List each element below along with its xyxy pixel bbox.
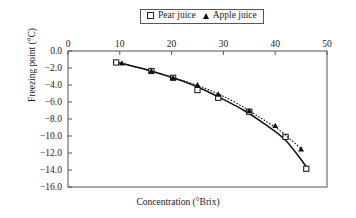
x-tick-label: 30 (219, 39, 229, 49)
y-tick-label: −10.0 (40, 131, 62, 141)
y-tick-label: −14.0 (40, 165, 62, 175)
plot-frame (68, 51, 327, 187)
y-tick-label: −16.0 (40, 182, 62, 192)
y-tick-label: −6.0 (45, 97, 62, 107)
data-point-pear-juice (304, 166, 309, 171)
x-tick-label: 0 (66, 39, 71, 49)
x-tick-label: 50 (322, 39, 332, 49)
data-point-apple-juice (195, 82, 201, 87)
x-tick-label: 40 (270, 39, 280, 49)
freezing-point-chart: Pear juice Apple juice Freezing point (°… (0, 0, 356, 218)
data-point-apple-juice (215, 91, 221, 96)
y-tick-label: −8.0 (45, 114, 62, 124)
data-point-pear-juice (114, 60, 119, 65)
series-line-pear-juice (116, 62, 306, 167)
x-tick-label: 20 (167, 39, 177, 49)
y-tick-label: −2.0 (45, 63, 62, 73)
plot-area: 010203040500.0−2.0−4.0−6.0−8.0−10.0−12.0… (0, 0, 356, 218)
y-tick-label: 0.0 (50, 46, 62, 56)
x-tick-label: 10 (115, 39, 125, 49)
y-tick-label: −4.0 (45, 80, 62, 90)
data-point-apple-juice (298, 146, 304, 151)
series-line-apple-juice (122, 63, 301, 148)
data-point-pear-juice (195, 88, 200, 93)
y-tick-label: −12.0 (40, 148, 62, 158)
